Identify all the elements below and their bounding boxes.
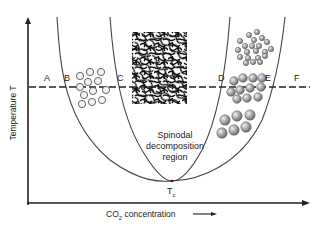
phase-diagram: A B C D E F Spinodal decomposition regio… [0,0,321,228]
point-label-a: A [44,74,50,83]
spinodal-texture [132,32,187,104]
x-label-suffix: concentration [122,209,175,219]
y-axis-arrow-icon [25,17,31,24]
spinodal-region-label: Spinodal decomposition region [140,130,210,163]
tc-sub: c [173,192,176,198]
spheres-large [217,110,255,138]
point-label-e: E [265,74,271,83]
critical-temperature-label: Tc [167,186,176,198]
point-label-d: D [218,74,225,83]
x-axis-arrow-icon [302,200,310,206]
spheres-small [235,29,273,65]
droplets-left [76,68,109,107]
y-axis-label: Temperature T [8,78,18,148]
x-label-prefix: CO [106,209,119,219]
point-label-c: C [117,74,124,83]
region-label-line3: region [140,152,210,163]
point-label-b: B [64,74,70,83]
region-label-line1: Spinodal [140,130,210,141]
x-label-arrow-icon [211,212,217,216]
phase-diagram-svg [0,0,321,228]
spheres-medium [227,74,267,104]
y-axis [25,17,31,205]
critical-point-marker [171,180,174,183]
region-label-line2: decomposition [140,141,210,152]
x-axis-label: CO2 concentration [106,209,176,221]
point-label-f: F [294,74,300,83]
x-axis [27,200,310,206]
